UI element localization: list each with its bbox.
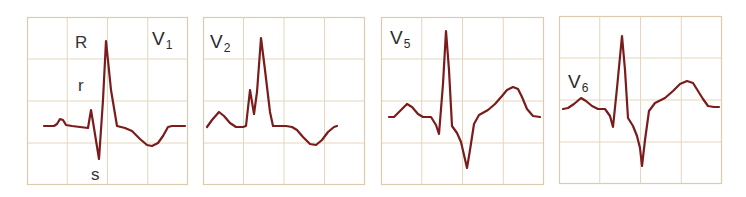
wave-annotation-r-upper: R <box>75 33 87 52</box>
ecg-panel-v1: V1Rrs <box>27 17 188 185</box>
ecg-panel-v2: V2 <box>203 17 365 185</box>
ecg-panel-v6: V6 <box>559 16 722 184</box>
wave-annotation-r: r <box>78 76 84 95</box>
ecg-panel-v5: V5 <box>381 17 544 185</box>
ecg-figure: V1RrsV2V5V6 <box>0 0 746 197</box>
wave-annotation-s: s <box>91 165 100 184</box>
